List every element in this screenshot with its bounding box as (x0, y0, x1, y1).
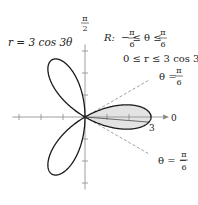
r-tick-label: 3 (149, 123, 155, 133)
ray-label-pos-den: 6 (176, 78, 181, 87)
equation-label: r = 3 cos 3θ (8, 36, 73, 48)
region-label-prefix: R: (103, 32, 115, 43)
ray-label-neg-num: π (181, 150, 186, 159)
region-theta-min-num: π (129, 28, 134, 37)
region-ineq-theta: − ≤ θ ≤ (121, 32, 162, 43)
ray-label-pos-num: π (176, 66, 181, 75)
vertical-axis-label-num: π (82, 14, 87, 23)
polar-axis-label: 0 (171, 113, 177, 123)
vertical-axis-label-den: 2 (82, 24, 87, 33)
region-theta-max-den: 6 (160, 40, 165, 49)
polar-axis-arrow-icon (163, 115, 169, 120)
ray-label-pos: θ = (159, 71, 177, 82)
polar-chart: r = 3 cos 3θ π 2 R: − ≤ θ ≤ π 6 π 6 0 ≤ … (0, 0, 198, 205)
region-theta-max-num: π (160, 28, 165, 37)
region-theta-min-den: 6 (129, 40, 134, 49)
region-ineq-r: 0 ≤ r ≤ 3 cos 3θ (123, 53, 198, 64)
ray-label-neg-den: 6 (181, 163, 186, 172)
